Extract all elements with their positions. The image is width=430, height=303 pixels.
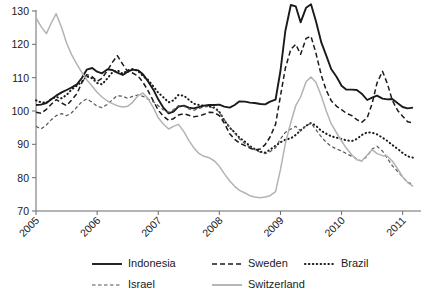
y-tick-label: 100 xyxy=(11,105,29,117)
series-line-brazil xyxy=(36,69,413,158)
legend-label-israel[interactable]: Israel xyxy=(128,278,155,290)
y-tick-label: 90 xyxy=(17,138,29,150)
x-axis-ticks: 2005200620072008200920102011 xyxy=(16,211,408,239)
x-tick-label: 2008 xyxy=(200,214,225,239)
x-tick-label: 2005 xyxy=(16,214,41,239)
legend-label-sweden[interactable]: Sweden xyxy=(248,257,288,269)
y-tick-label: 70 xyxy=(17,205,29,217)
series-line-indonesia xyxy=(36,4,413,113)
y-tick-label: 130 xyxy=(11,5,29,17)
legend-label-brazil[interactable]: Brazil xyxy=(341,257,369,269)
x-tick-label: 2006 xyxy=(78,214,103,239)
chart-legend: IndonesiaSwedenBrazilIsraelSwitzerland xyxy=(92,257,369,290)
x-tick-label: 2007 xyxy=(139,214,164,239)
y-tick-label: 120 xyxy=(11,38,29,50)
series-line-sweden xyxy=(36,36,413,150)
x-tick-label: 2010 xyxy=(322,214,347,239)
x-tick-label: 2011 xyxy=(384,214,409,239)
line-chart-svg: 708090100110120130 200520062007200820092… xyxy=(0,0,430,303)
x-tick-label: 2009 xyxy=(261,214,286,239)
series-line-switzerland xyxy=(36,14,413,198)
y-tick-label: 80 xyxy=(17,172,29,184)
legend-label-switzerland[interactable]: Switzerland xyxy=(248,278,305,290)
chart-container: 708090100110120130 200520062007200820092… xyxy=(0,0,430,303)
y-tick-label: 110 xyxy=(12,72,29,84)
y-axis-ticks: 708090100110120130 xyxy=(11,5,36,217)
data-series-group xyxy=(36,4,413,197)
legend-label-indonesia[interactable]: Indonesia xyxy=(128,257,177,269)
